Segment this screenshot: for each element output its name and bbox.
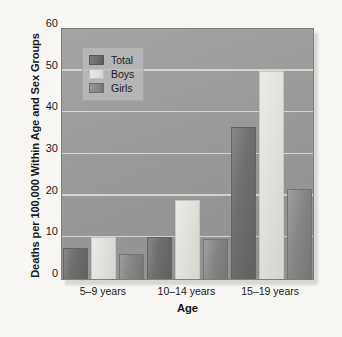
bar-girls-group-2[interactable] — [203, 239, 228, 279]
bar-group-3 — [231, 29, 312, 279]
x-tick-label-2: 10–14 years — [145, 285, 229, 298]
legend-swatch-boys-icon — [89, 69, 104, 79]
bar-total-group-3[interactable] — [231, 127, 256, 279]
y-tick-label-0: 0 — [36, 268, 58, 278]
legend-item-girls[interactable]: Girls — [89, 81, 134, 95]
x-axis-title: Age — [61, 301, 314, 315]
x-tick-label-1: 5–9 years — [61, 285, 145, 298]
plot-area: Total Boys Girls — [61, 28, 314, 280]
x-axis-tick-labels: 5–9 years10–14 years15–19 years — [61, 285, 314, 299]
y-tick-label-30: 30 — [36, 143, 58, 153]
legend-label-girls: Girls — [111, 82, 133, 94]
legend-item-total[interactable]: Total — [89, 53, 134, 67]
bar-total-group-2[interactable] — [147, 237, 172, 279]
y-tick-label-20: 20 — [36, 185, 58, 195]
y-tick-label-60: 60 — [36, 18, 58, 28]
bar-boys-group-2[interactable] — [175, 200, 200, 279]
legend-swatch-total-icon — [89, 55, 104, 65]
legend-label-boys: Boys — [111, 68, 134, 80]
legend-label-total: Total — [111, 54, 133, 66]
bar-girls-group-3[interactable] — [287, 189, 312, 279]
y-tick-label-40: 40 — [36, 101, 58, 111]
bar-total-group-1[interactable] — [63, 248, 88, 279]
legend-swatch-girls-icon — [89, 83, 104, 93]
y-tick-label-50: 50 — [36, 60, 58, 70]
bar-boys-group-1[interactable] — [91, 237, 116, 279]
legend: Total Boys Girls — [82, 47, 144, 101]
bar-chart-figure: Deaths per 100,000 Within Age and Sex Gr… — [0, 0, 342, 337]
bar-group-2 — [147, 29, 228, 279]
legend-item-boys[interactable]: Boys — [89, 67, 134, 81]
bar-boys-group-3[interactable] — [259, 71, 284, 279]
x-tick-label-3: 15–19 years — [228, 285, 312, 298]
y-axis-tick-labels: 0102030405060 — [36, 23, 58, 278]
bar-girls-group-1[interactable] — [119, 254, 144, 279]
y-tick-label-10: 10 — [36, 226, 58, 236]
